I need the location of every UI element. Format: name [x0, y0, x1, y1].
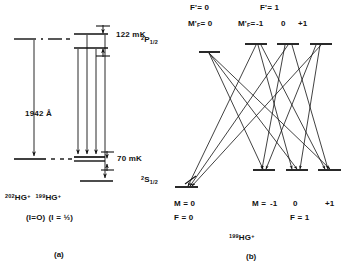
- label-upper-mf1: M'F=: [238, 20, 255, 29]
- term-label-2s12: 2S1/2: [141, 176, 158, 185]
- term-2p-j: 1/2: [150, 39, 158, 45]
- spin-label-202: (I=O): [26, 213, 45, 222]
- spin-labels-panel-a: (I=O)(I = ½): [26, 214, 73, 222]
- label-upper-f0: F'= 0: [190, 4, 209, 12]
- label-upper-mf1-zero: 0: [281, 20, 286, 28]
- isotope-labels-panel-a: 202HG+199HG+: [5, 194, 61, 202]
- label-upper-mf0-val: = 0: [201, 19, 213, 28]
- figure-svg: [0, 0, 351, 273]
- term-2s-j: 1/2: [150, 179, 158, 185]
- isotope-199-mass: 199: [36, 193, 46, 199]
- label-lower-m0: M = 0: [174, 200, 195, 208]
- panel-b-diagram: [175, 44, 341, 187]
- label-upper-f1: F'= 1: [260, 4, 279, 12]
- label-lower-m-plus1: +1: [325, 200, 335, 208]
- isotope-199-symbol: HG: [45, 193, 57, 202]
- spin-label-199: (I = ½): [48, 213, 73, 222]
- isotope-b-charge: +: [251, 233, 254, 239]
- energy-level-figure: 122 mK 70 mK 1942 Å 202HG+199HG+ (I=O)(I…: [0, 0, 351, 273]
- splitting-arrow-122mk: [96, 25, 110, 57]
- caption-panel-a: (a): [54, 250, 64, 259]
- isotope-b-symbol: HG: [239, 233, 251, 242]
- b-transitions-from-f0: [209, 53, 330, 169]
- label-1942-angstrom: 1942 Å: [25, 110, 52, 118]
- label-upper-mf1-eq: =: [251, 19, 256, 28]
- label-lower-f1: F = 1: [290, 214, 309, 222]
- isotope-202-symbol: HG: [15, 193, 27, 202]
- isotope-b-mass: 199: [229, 233, 239, 239]
- isotope-label-panel-b: 199HG+: [229, 234, 255, 242]
- b-transitions-f1-f1: [258, 45, 328, 169]
- label-upper-mf1-plus1: +1: [298, 20, 308, 28]
- term-label-2p12: 2P1/2: [141, 36, 158, 45]
- label-upper-mf0-m: M': [188, 19, 197, 28]
- label-lower-f0: F = 0: [174, 214, 193, 222]
- label-upper-mf0: M'F= 0: [188, 20, 212, 29]
- isotope-199-charge: +: [58, 193, 61, 199]
- label-lower-m: M =: [252, 200, 266, 208]
- label-lower-m-zero: 0: [293, 200, 298, 208]
- panel-a-diagram: [14, 25, 114, 181]
- isotope-202-mass: 202: [5, 193, 15, 199]
- label-lower-m-minus1: -1: [270, 200, 278, 208]
- label-upper-mf1-minus1: -1: [256, 20, 264, 28]
- isotope-202-charge: +: [27, 193, 30, 199]
- label-upper-mf1-m: M': [238, 19, 247, 28]
- caption-panel-b: (b): [246, 252, 256, 261]
- label-70mk: 70 mK: [117, 155, 142, 163]
